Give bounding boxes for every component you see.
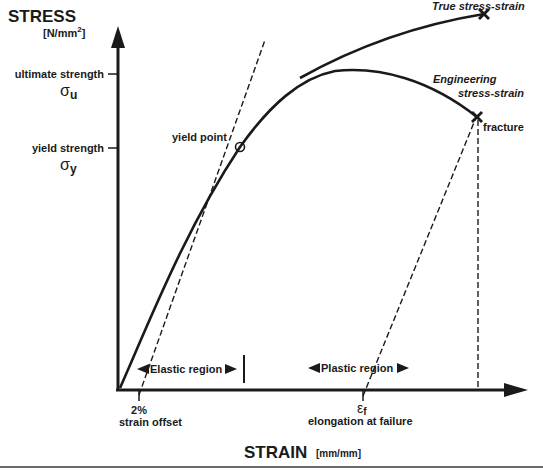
elongation-line xyxy=(363,120,475,396)
yield-point-label: yield point xyxy=(172,131,227,143)
right-arrow-icon xyxy=(397,363,409,373)
engineering-curve xyxy=(120,70,477,388)
elongation-label: elongation at failure xyxy=(308,415,413,427)
yield-strength-symbol: σy xyxy=(60,156,77,176)
engineering-curve-label-2: stress-strain xyxy=(458,87,524,99)
y-axis-title: STRESS xyxy=(8,7,76,26)
ultimate-strength-symbol: σu xyxy=(60,82,77,102)
plastic-region-marker: Plastic region xyxy=(308,362,409,374)
left-arrow-icon xyxy=(137,364,149,374)
bottom-rule xyxy=(0,466,543,468)
x-axis xyxy=(116,383,528,401)
y-axis xyxy=(108,26,125,390)
x-axis-title: STRAIN xyxy=(244,443,307,462)
fracture-x-icon xyxy=(472,112,482,122)
offset-line xyxy=(139,40,265,395)
strain-offset-label: strain offset xyxy=(119,416,182,428)
stress-strain-diagram: STRESS [N/mm2] ultimate strength σu yiel… xyxy=(0,0,543,472)
y-axis-arrow-icon xyxy=(111,26,125,48)
left-arrow-icon xyxy=(308,363,320,373)
yield-strength-label: yield strength xyxy=(32,142,104,154)
fracture-label: fracture xyxy=(483,121,524,133)
x-axis-unit: [mm/mm] xyxy=(316,448,361,459)
svg-text:Plastic region: Plastic region xyxy=(321,362,393,374)
elastic-region-marker: Elastic region xyxy=(137,355,244,383)
strain-offset-value: 2% xyxy=(131,404,147,416)
y-axis-unit: [N/mm2] xyxy=(43,25,86,39)
ultimate-strength-label: ultimate strength xyxy=(15,68,105,80)
true-curve xyxy=(300,14,484,78)
svg-text:Elastic region: Elastic region xyxy=(150,363,222,375)
engineering-curve-label-1: Engineering xyxy=(433,73,497,85)
true-curve-label: True stress-strain xyxy=(432,0,525,12)
x-axis-arrow-icon xyxy=(504,383,528,397)
right-arrow-icon xyxy=(225,364,237,374)
